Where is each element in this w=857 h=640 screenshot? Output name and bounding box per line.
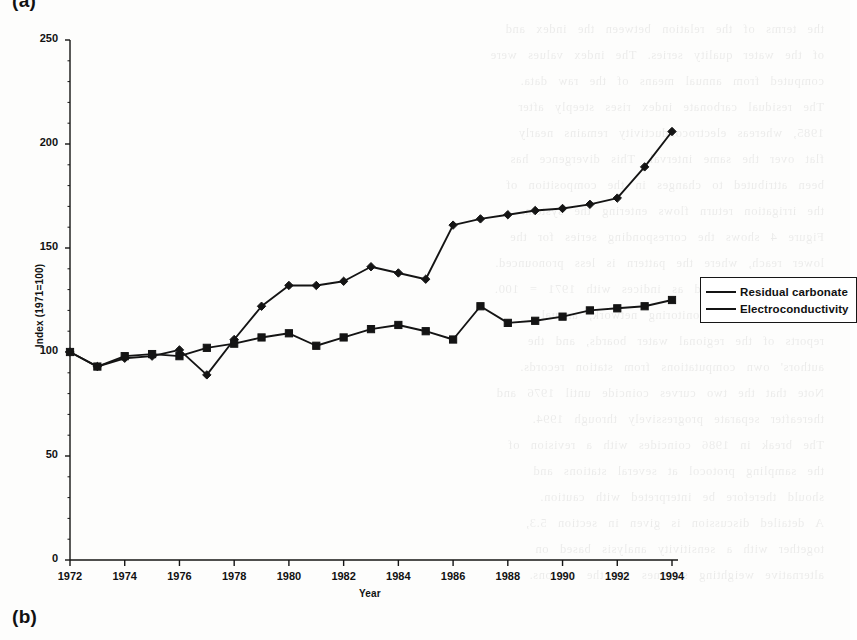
legend-entry: Residual carbonate [706,283,849,300]
chart-legend: Residual carbonate Electroconductivity [700,277,857,323]
diamond-marker-icon [706,285,736,298]
legend-label: Electroconductivity [740,303,849,315]
square-marker-icon [706,302,736,315]
legend-entry: Electroconductivity [706,300,849,317]
legend-label: Residual carbonate [740,286,848,298]
